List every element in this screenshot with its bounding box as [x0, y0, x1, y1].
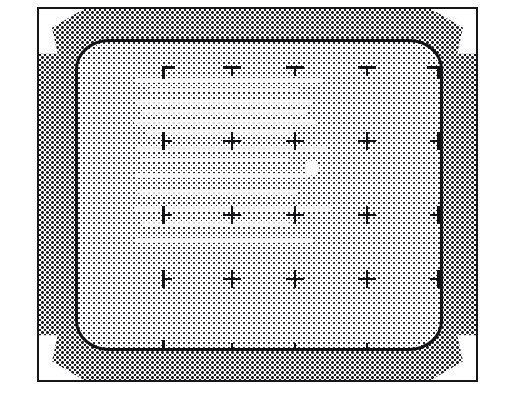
alignment-mark-edge-right-2: [422, 205, 442, 225]
alignment-mark-edge-bottom-2: [285, 335, 305, 351]
alignment-mark-edge-bottom-1: [222, 335, 242, 351]
mark-vertical-stroke: [231, 206, 234, 224]
alignment-mark-cross-r1-c2: [285, 131, 305, 151]
mark-vertical-stroke: [437, 66, 440, 79]
mark-vertical-stroke: [231, 132, 234, 150]
mark-vertical-stroke: [162, 132, 165, 150]
alignment-mark-cross-r3-c2: [285, 269, 305, 289]
mark-vertical-stroke: [437, 206, 440, 224]
mark-horizontal-stroke: [162, 350, 175, 351]
alignment-mark-edge-left-1: [160, 131, 180, 151]
mark-horizontal-stroke: [358, 350, 376, 351]
mark-vertical-stroke: [231, 66, 234, 76]
mark-vertical-stroke: [231, 343, 234, 351]
mark-vertical-stroke: [162, 270, 165, 288]
crt-screen[interactable]: [75, 39, 443, 351]
mark-vertical-stroke: [162, 66, 165, 79]
mark-vertical-stroke: [437, 132, 440, 150]
alignment-mark-edge-left-2: [160, 205, 180, 225]
alignment-mark-edge-left-3: [160, 269, 180, 289]
alignment-mark-edge-right-1: [422, 131, 442, 151]
mark-vertical-stroke: [366, 343, 369, 351]
alignment-mark-cross-r3-c3: [357, 269, 377, 289]
mark-horizontal-stroke: [286, 350, 304, 351]
alignment-mark-edge-top-2: [285, 64, 305, 84]
mark-vertical-stroke: [294, 343, 297, 351]
alignment-mark-cross-r2-c3: [357, 205, 377, 225]
alignment-mark-edge-top-1: [222, 64, 242, 84]
alignment-mark-corner-top-right: [422, 64, 442, 84]
mark-vertical-stroke: [162, 206, 165, 224]
mark-vertical-stroke: [294, 270, 297, 288]
mark-vertical-stroke: [162, 340, 165, 351]
mark-vertical-stroke: [294, 66, 297, 76]
cursor-spot[interactable]: [305, 161, 320, 176]
mark-horizontal-stroke: [223, 350, 241, 351]
alignment-mark-cross-r3-c1: [222, 269, 242, 289]
alignment-mark-cross-r2-c1: [222, 205, 242, 225]
alignment-mark-corner-top-left: [160, 64, 180, 84]
crt-monitor-frame: [37, 7, 478, 382]
mark-vertical-stroke: [366, 206, 369, 224]
alignment-mark-cross-r2-c2: [285, 205, 305, 225]
mark-vertical-stroke: [231, 270, 234, 288]
alignment-mark-cross-r1-c3: [357, 131, 377, 151]
figure-canvas: [0, 0, 515, 415]
alignment-mark-cross-r1-c1: [222, 131, 242, 151]
alignment-mark-edge-bottom-3: [357, 335, 377, 351]
alignment-pattern-grid: [78, 42, 440, 348]
alignment-mark-corner-bottom-left: [160, 335, 180, 351]
mark-vertical-stroke: [366, 270, 369, 288]
mark-vertical-stroke: [366, 132, 369, 150]
mark-vertical-stroke: [366, 66, 369, 76]
mark-vertical-stroke: [294, 132, 297, 150]
mark-vertical-stroke: [294, 206, 297, 224]
alignment-mark-edge-top-3: [357, 64, 377, 84]
mark-vertical-stroke: [437, 270, 440, 288]
alignment-mark-edge-right-3: [422, 269, 442, 289]
